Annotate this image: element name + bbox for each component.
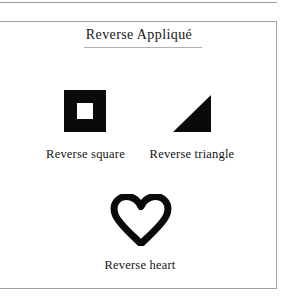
reverse-square-cutout (77, 103, 93, 119)
reverse-triangle-shape-holder (112, 86, 272, 142)
figure-item-reverse-triangle: Reverse triangle (112, 86, 272, 162)
figure-item-reverse-heart: Reverse heart (60, 191, 220, 273)
reverse-heart-icon (110, 194, 172, 246)
figure-page: Reverse Appliqué Reverse square Reverse … (0, 0, 284, 296)
page-top-rule (0, 2, 277, 3)
figure-title: Reverse Appliqué (0, 27, 278, 43)
reverse-heart-caption: Reverse heart (60, 258, 220, 273)
reverse-triangle-caption: Reverse triangle (112, 147, 272, 162)
reverse-square-icon (64, 90, 106, 132)
title-underline-rule (84, 47, 202, 48)
reverse-triangle-icon (173, 95, 211, 132)
reverse-heart-shape-holder (60, 191, 220, 247)
